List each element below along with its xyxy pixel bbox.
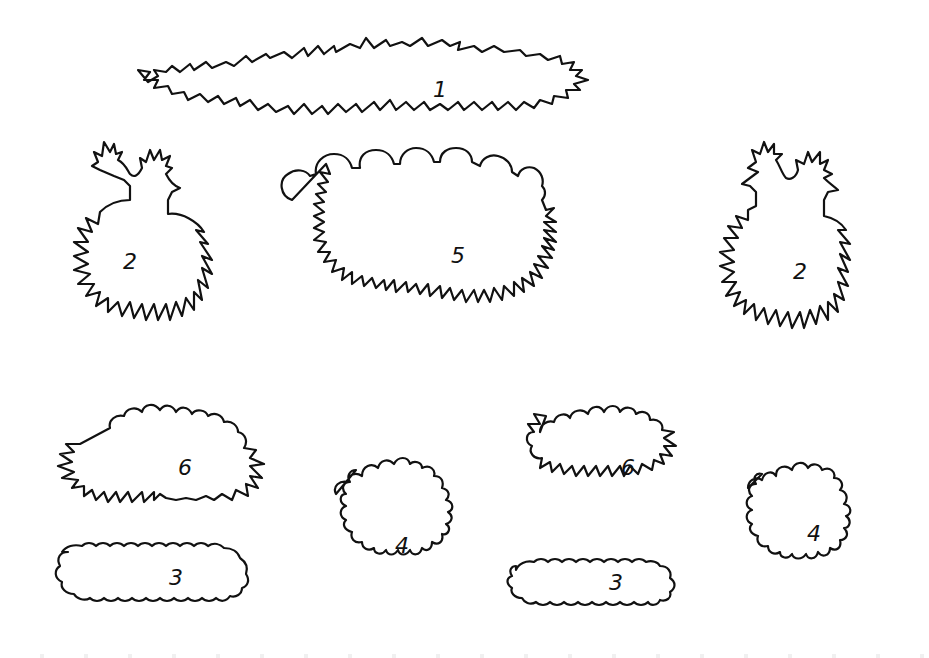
shape-6-right-number: 6 [621,457,635,479]
shape-4-left-number: 4 [395,535,409,557]
scan-edge-marks [0,654,929,658]
shape-2-left-number: 2 [123,251,137,273]
shape-3-left-hedge [56,543,248,601]
shape-6-left-number: 6 [178,457,192,479]
shape-1-number: 1 [433,79,447,101]
shape-3-left-number: 3 [169,567,183,589]
shape-2-left-spiky-bush [74,142,212,320]
shape-3-right-number: 3 [609,572,623,594]
shape-2-right-spiky-bush [720,142,850,328]
shape-4-right-round-bush [747,463,851,559]
shape-2-right-number: 2 [793,261,807,283]
shape-3-right-hedge [508,559,675,605]
shape-6-right-oval-bush [527,406,676,476]
shape-5-number: 5 [451,245,465,267]
template-canvas [0,0,929,658]
shape-5-scalloped-bush [282,148,556,302]
shape-1-grass-strip [138,38,588,114]
shape-4-left-round-bush [335,458,452,555]
shape-4-right-number: 4 [807,523,821,545]
shape-6-left-oval-bush [58,405,264,502]
